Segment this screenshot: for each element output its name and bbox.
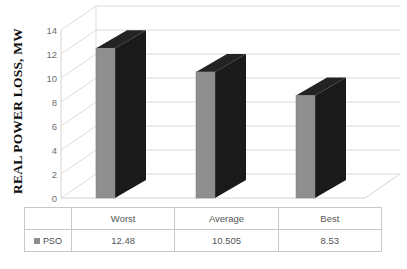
bar-best-side: [315, 78, 346, 198]
bar-best-front: [296, 96, 315, 198]
table-header-best: Best: [278, 208, 381, 230]
table-corner-cell: [25, 208, 72, 230]
bar-average[interactable]: [196, 54, 246, 198]
data-table: Worst Average Best PSO 12.48 10.505 8.53: [24, 207, 382, 252]
table-header-average: Average: [175, 208, 278, 230]
table-value-average: 10.505: [175, 230, 278, 252]
legend-entry-pso[interactable]: PSO: [25, 230, 72, 252]
legend-swatch-icon: [34, 238, 40, 244]
bar-average-side: [215, 54, 246, 198]
bar-worst-front: [96, 48, 115, 198]
table-row-pso: PSO 12.48 10.505 8.53: [25, 230, 382, 252]
bar-worst-side: [115, 30, 146, 198]
bar-worst[interactable]: [96, 30, 146, 198]
chart-container: REAL POWER LOSS, MW 14 12 10 8 6 4 2 0: [0, 0, 407, 269]
bar-average-front: [196, 72, 215, 198]
table-row-categories: Worst Average Best: [25, 208, 382, 230]
bar-best[interactable]: [296, 78, 346, 198]
gridlines-depth: [61, 6, 96, 198]
table-value-best: 8.53: [278, 230, 381, 252]
table-header-worst: Worst: [72, 208, 175, 230]
legend-label-pso: PSO: [43, 236, 62, 246]
table-value-worst: 12.48: [72, 230, 175, 252]
